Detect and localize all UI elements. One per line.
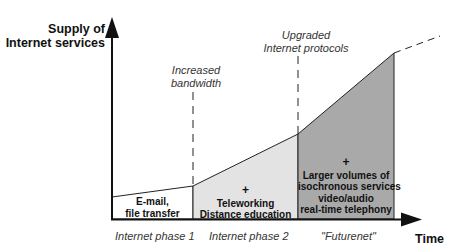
futurenet-label: "Futurenet" bbox=[321, 230, 376, 243]
milestone-1-line1: Increased bbox=[166, 64, 226, 77]
futurenet-service-line: video/audio bbox=[298, 193, 394, 205]
futurenet-services: + Larger volumes of isochronous services… bbox=[298, 156, 394, 216]
futurenet-service-line: real-time telephony bbox=[298, 204, 394, 216]
milestone-1-line2: bandwidth bbox=[166, 77, 226, 90]
futurenet-service-line: Larger volumes of bbox=[298, 170, 394, 182]
y-axis-label-line2: Internet services bbox=[6, 36, 105, 50]
milestone-2-line2: Internet protocols bbox=[256, 42, 356, 55]
y-axis-label-line1: Supply of bbox=[6, 22, 105, 36]
phase-1-label: Internet phase 1 bbox=[115, 230, 195, 243]
x-axis-arrowhead-icon bbox=[401, 213, 422, 227]
plus-icon: + bbox=[298, 156, 394, 170]
growth-extension-dashed bbox=[394, 36, 440, 53]
phase-1-services: E-mail, file transfer bbox=[112, 196, 193, 219]
phase-2-services: + Teleworking Distance education bbox=[193, 184, 298, 221]
phase-1-service-line: file transfer bbox=[112, 208, 193, 220]
milestone-upgraded-protocols: Upgraded Internet protocols bbox=[256, 29, 356, 54]
x-axis-label: Time bbox=[415, 232, 444, 246]
y-axis-arrowhead-icon bbox=[105, 17, 119, 38]
phase-2-service-line: Teleworking bbox=[193, 198, 298, 210]
phase-2-label: Internet phase 2 bbox=[209, 230, 289, 243]
phase-1-service-line: E-mail, bbox=[112, 196, 193, 208]
plus-icon: + bbox=[193, 184, 298, 198]
milestone-2-line1: Upgraded bbox=[256, 29, 356, 42]
phase-2-service-line: Distance education bbox=[193, 209, 298, 221]
futurenet-service-line: isochronous services bbox=[298, 181, 394, 193]
y-axis-label: Supply of Internet services bbox=[6, 22, 105, 51]
milestone-increased-bandwidth: Increased bandwidth bbox=[166, 64, 226, 89]
